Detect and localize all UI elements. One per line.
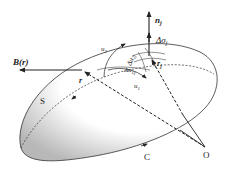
label-u2: u2: [101, 45, 108, 54]
label-delta-sigma-j: Δσj: [155, 35, 168, 46]
label-surface-s: S: [40, 96, 45, 106]
label-origin-o: O: [203, 150, 210, 160]
surface-s: [20, 44, 217, 161]
label-nj: nj: [155, 15, 162, 26]
surface-diagram: nj Δσj B(r) r rj u2 u1 Δu2j Δu1j S C O: [0, 0, 230, 181]
label-curve-c: C: [144, 152, 150, 162]
position-vector-rj: [183, 115, 205, 147]
origin-to-surface-line: [180, 130, 205, 147]
label-field-b: B(r): [12, 57, 29, 67]
